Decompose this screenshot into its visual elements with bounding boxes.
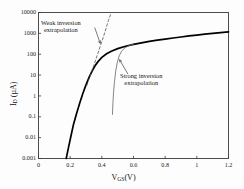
x-tick-label-6: 1.2 xyxy=(215,162,243,169)
y-axis-title: ID (µA) xyxy=(9,81,18,105)
x-axis-title-unit: (V) xyxy=(124,173,135,182)
y-tick-label-2: 0.1 xyxy=(28,113,36,120)
x-tick-label-2: 0.4 xyxy=(88,162,116,169)
x-axis-title: VGS(V) xyxy=(112,173,136,182)
y-tick-label-7: 10000 xyxy=(21,9,36,16)
x-tick-label-5: 1 xyxy=(183,162,211,169)
x-tick-label-4: 0.8 xyxy=(151,162,179,169)
strong-inversion-annotation-line1: Strong inversion xyxy=(120,72,162,79)
y-tick-label-0: 0.001 xyxy=(22,155,36,162)
y-tick-label-1: 0.01 xyxy=(25,134,36,141)
series-path-1 xyxy=(87,13,112,86)
weak-inversion-annotation-line2: extrapolation xyxy=(41,26,81,33)
figure-container: 0.0010.010.1110100100010000 00.20.40.60.… xyxy=(0,0,244,189)
strong-inversion-annotation: Strong inversion extrapolation xyxy=(120,72,162,87)
weak-inversion-annotation-line1: Weak inversion xyxy=(41,19,81,26)
chart-plot-area xyxy=(0,0,244,189)
weak-inversion-annotation-leader xyxy=(95,28,101,44)
y-tick-label-6: 1000 xyxy=(24,30,36,37)
y-axis-title-unit: (µA) xyxy=(9,81,18,97)
series-path-0 xyxy=(66,32,228,159)
y-tick-label-5: 100 xyxy=(27,51,36,58)
x-tick-label-0: 0 xyxy=(25,162,53,169)
x-tick-label-1: 0.2 xyxy=(56,162,84,169)
y-tick-label-4: 10 xyxy=(30,72,36,79)
weak-inversion-annotation: Weak inversion extrapolation xyxy=(41,19,81,34)
x-tick-label-3: 0.6 xyxy=(120,162,148,169)
y-tick-label-3: 1 xyxy=(33,93,36,100)
strong-inversion-annotation-line2: extrapolation xyxy=(120,79,162,86)
y-axis-title-sub: D xyxy=(12,99,18,103)
